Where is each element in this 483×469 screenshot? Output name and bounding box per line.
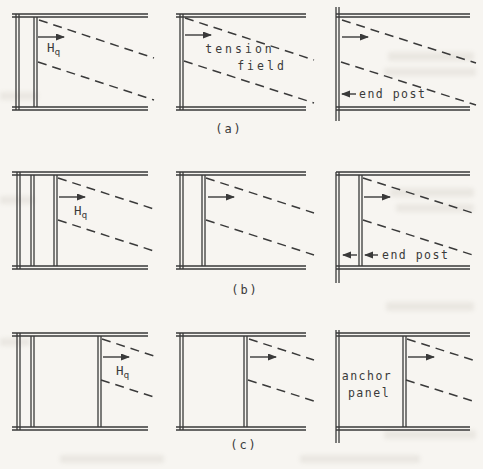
top-flange: [176, 172, 306, 175]
scanned-book-figure-page: Hq tension field (a) end post: [0, 0, 483, 469]
anchor-panel-label-line2: panel: [348, 386, 390, 400]
tension-field-line: [206, 178, 314, 213]
tension-field-line: [206, 220, 314, 255]
girder-diagram-c1: Hq: [12, 333, 154, 430]
tension-field-line: [248, 380, 314, 401]
row-a-label: (a): [215, 122, 243, 136]
girder-diagram-a1: Hq: [12, 14, 154, 110]
top-flange: [336, 172, 470, 175]
top-flange: [12, 14, 148, 17]
girder-end-edge: [180, 172, 183, 269]
top-flange: [336, 14, 470, 17]
end-post: [336, 330, 339, 443]
force-label-subscript: q: [82, 209, 88, 220]
force-label: Hq: [47, 40, 60, 57]
tension-field-figure: Hq tension field (a) end post: [0, 0, 483, 469]
end-stiffener: [34, 17, 37, 107]
girder-end-edge: [17, 172, 20, 269]
top-flange: [12, 172, 148, 175]
bottom-flange: [336, 266, 470, 269]
tension-field-line: [38, 62, 154, 100]
force-label-main: H: [74, 203, 82, 218]
bottom-flange: [336, 427, 470, 430]
tension-field-line: [406, 380, 476, 402]
girder-diagram-b2: (b): [176, 172, 314, 297]
first-stiffener: [31, 336, 34, 427]
row-b-label: (b): [231, 283, 259, 297]
anchor-panel-label-line1: anchor: [342, 369, 393, 383]
panel-stiffener: [98, 336, 101, 427]
tension-field-label-line2: field: [237, 59, 287, 73]
girder-diagram-c3: anchor panel: [336, 330, 476, 443]
force-label: Hq: [116, 363, 129, 380]
second-stiffener: [54, 175, 57, 266]
force-label-subscript: q: [55, 46, 61, 57]
bottom-flange: [12, 427, 148, 430]
force-label-main: H: [116, 363, 124, 378]
tension-field-line: [342, 20, 476, 63]
girder-end-edge: [17, 333, 20, 430]
force-label-main: H: [47, 40, 55, 55]
girder-diagram-a2: tension field (a): [176, 14, 314, 136]
top-flange: [176, 14, 306, 17]
girder-end-edge: [16, 14, 19, 110]
end-post-label: end post: [359, 87, 426, 101]
panel-stiffener: [244, 336, 247, 427]
end-post: [336, 7, 339, 121]
girder-end-edge: [180, 333, 183, 430]
tension-field-line: [363, 178, 476, 214]
first-stiffener: [31, 175, 34, 266]
end-post-label: end post: [382, 248, 449, 262]
girder-diagram-a3: end post: [336, 7, 476, 121]
force-label-subscript: q: [124, 369, 130, 380]
bottom-flange: [176, 266, 306, 269]
top-flange: [336, 333, 470, 336]
force-label: Hq: [74, 203, 87, 220]
end-stiffener: [202, 175, 205, 266]
tension-field-line: [102, 339, 154, 356]
tension-field-line: [101, 380, 154, 397]
tension-field-label-line1: tension: [205, 42, 274, 56]
bottom-flange: [12, 266, 148, 269]
girder-end-edge: [180, 14, 183, 110]
bottom-flange: [336, 107, 470, 110]
row-c-label: (c): [230, 438, 258, 452]
girder-diagram-b3: end post: [336, 172, 476, 283]
girder-diagram-c2: (c): [176, 333, 314, 452]
tension-field-line: [58, 220, 154, 251]
top-flange: [176, 333, 306, 336]
bottom-flange: [12, 107, 148, 110]
panel-stiffener: [403, 336, 406, 427]
bottom-flange: [176, 427, 306, 430]
top-flange: [12, 333, 148, 336]
end-stiffener: [359, 175, 362, 266]
tension-field-line: [58, 178, 154, 209]
bottom-flange: [176, 107, 306, 110]
girder-diagram-b1: Hq: [12, 172, 154, 269]
